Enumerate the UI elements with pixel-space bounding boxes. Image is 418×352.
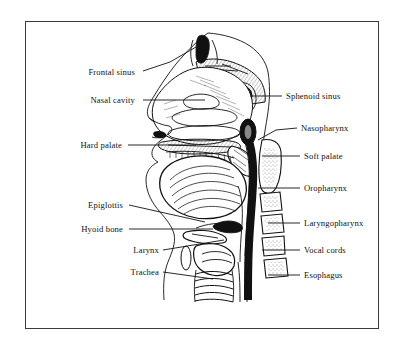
label-epiglottis: Epiglottis	[88, 201, 123, 210]
nasal-cavity-structure	[152, 67, 252, 144]
anatomy-illustration	[0, 0, 418, 352]
label-vocal-cords: Vocal cords	[304, 246, 346, 255]
larynx-structure	[181, 244, 235, 276]
label-laryngopharynx: Laryngopharynx	[304, 219, 363, 228]
label-hyoid-bone: Hyoid bone	[81, 225, 123, 234]
label-trachea: Trachea	[131, 268, 159, 277]
label-nasopharynx: Nasopharynx	[301, 124, 348, 133]
label-larynx: Larynx	[133, 246, 159, 255]
label-oropharynx: Oropharynx	[304, 184, 347, 193]
label-sphenoid-sinus: Sphenoid sinus	[286, 92, 340, 101]
label-soft-palate: Soft palate	[304, 152, 343, 161]
tongue-structure	[160, 156, 247, 219]
figure-canvas: Frontal sinus Nasal cavity Hard palate E…	[0, 0, 418, 352]
cervical-vertebrae	[259, 140, 288, 279]
hyoid-bone-structure	[183, 230, 227, 243]
label-nasal-cavity: Nasal cavity	[90, 96, 135, 105]
nasopharynx-structure	[240, 119, 256, 145]
label-esophagus: Esophagus	[304, 271, 343, 280]
label-frontal-sinus: Frontal sinus	[88, 68, 135, 77]
label-hard-palate: Hard palate	[81, 141, 123, 150]
